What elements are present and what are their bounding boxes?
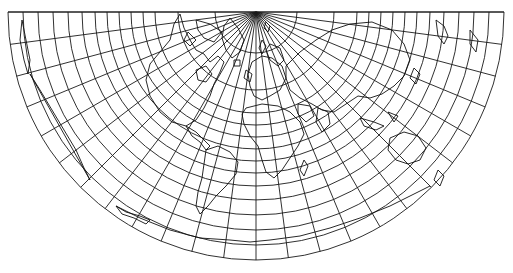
meridian-line xyxy=(256,12,485,107)
meridian-line xyxy=(256,12,431,187)
coastlines xyxy=(20,14,478,242)
meridian-line xyxy=(224,12,256,258)
coastline-madagascar xyxy=(300,160,308,176)
coastline-central-america xyxy=(186,126,210,150)
meridian-line xyxy=(256,12,320,252)
coastline-indonesia xyxy=(360,112,398,130)
coastline-antarctica-right xyxy=(270,186,430,240)
meridian-line xyxy=(256,12,471,136)
meridian-line xyxy=(256,12,502,44)
meridian-line xyxy=(192,12,256,252)
coastline-north-america xyxy=(146,14,224,126)
meridian-line xyxy=(16,12,256,76)
graticule xyxy=(8,12,504,260)
meridian-line xyxy=(256,12,380,227)
map-container xyxy=(0,0,513,273)
meridian-line xyxy=(256,12,288,258)
meridian-line xyxy=(256,12,496,76)
coastline-alaska-west xyxy=(20,20,30,74)
meridian-line xyxy=(256,12,351,241)
meridian-line xyxy=(10,12,256,44)
meridian-line xyxy=(81,12,256,187)
meridian-line xyxy=(41,12,256,136)
world-map xyxy=(0,0,513,273)
meridian-line xyxy=(132,12,256,227)
